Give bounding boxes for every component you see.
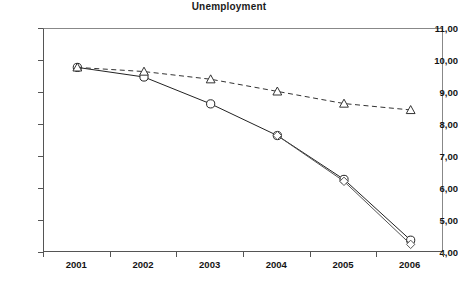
plot-area (43, 28, 443, 252)
series-line-actual (77, 67, 410, 240)
y-axis-tick-mark (38, 252, 43, 253)
x-axis-tick-label: 2006 (380, 259, 440, 270)
series-layer (44, 29, 444, 253)
series-line-alternative (277, 136, 410, 245)
data-point-circle-marker (207, 100, 215, 108)
series-line-baseline (77, 67, 410, 110)
x-axis-tick-label: 2003 (180, 259, 240, 270)
x-axis-tick-label: 2001 (46, 259, 106, 270)
chart-title: Unemployment (0, 1, 458, 12)
x-axis-tick-label: 2002 (113, 259, 173, 270)
x-axis-tick-label: 2004 (246, 259, 306, 270)
x-axis-tick-label: 2005 (313, 259, 373, 270)
unemployment-chart: Unemployment 11,0010,009,008,007,006,005… (0, 0, 458, 282)
